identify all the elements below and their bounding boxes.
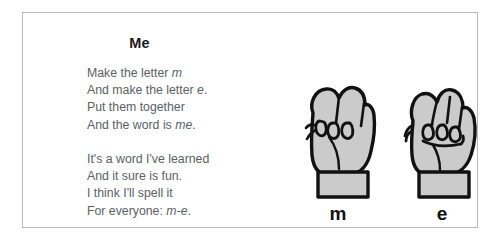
asl-hand-m-figure: m bbox=[295, 73, 387, 225]
asl-hand-m-label: m bbox=[295, 203, 387, 225]
poem-line: And make the letter e. bbox=[87, 82, 207, 99]
page-title: Me bbox=[87, 35, 192, 51]
page-canvas: Me Make the letter m And make the letter… bbox=[0, 0, 497, 244]
poem-stanza-2: It's a word I've learned And it sure is … bbox=[87, 151, 209, 220]
poem-stanza-1: Make the letter m And make the letter e.… bbox=[87, 65, 207, 134]
poem-line: And it sure is fun. bbox=[87, 168, 209, 185]
asl-hand-e-label: e bbox=[397, 203, 489, 225]
asl-hand-e-figure: e bbox=[397, 73, 489, 225]
poem-line: I think I'll spell it bbox=[87, 185, 209, 202]
asl-hand-m-icon bbox=[295, 73, 387, 201]
poem-line: And the word is me. bbox=[87, 117, 207, 134]
poem-line: It's a word I've learned bbox=[87, 151, 209, 168]
poem-line: Put them together bbox=[87, 99, 207, 116]
asl-hand-e-icon bbox=[397, 73, 489, 201]
poem-line: Make the letter m bbox=[87, 65, 207, 82]
poem-line: For everyone: m-e. bbox=[87, 203, 209, 220]
poem-card: Me Make the letter m And make the letter… bbox=[22, 12, 478, 228]
